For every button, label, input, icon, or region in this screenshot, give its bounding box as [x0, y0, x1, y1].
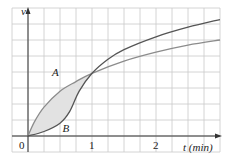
annotation-a: A	[51, 66, 59, 78]
annotation-b: B	[63, 122, 70, 134]
x-axis-arrow-icon	[215, 134, 222, 139]
x-axis-label: t (min)	[183, 141, 213, 154]
chart: 012 v t (min) A B	[0, 0, 232, 159]
x-tick-label: 1	[89, 139, 95, 151]
y-axis-label: v	[21, 5, 26, 17]
x-tick-label: 0	[19, 139, 25, 151]
x-tick-label: 2	[153, 139, 159, 151]
